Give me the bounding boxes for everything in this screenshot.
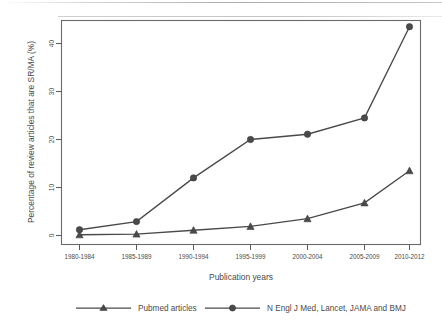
y-tick-label-30: 30 bbox=[48, 88, 55, 96]
x-tick-label-2000-2004: 2000-2004 bbox=[292, 253, 323, 260]
x-tick-label-1985-1989: 1985-1989 bbox=[121, 253, 152, 260]
data-series-layer bbox=[76, 24, 413, 238]
series-line-journals bbox=[80, 27, 410, 230]
legend-label-pubmed: Pubmed articles bbox=[138, 304, 197, 313]
y-tick-label-20: 20 bbox=[48, 136, 55, 144]
data-point-journals-1980-1984 bbox=[76, 227, 82, 233]
data-point-journals-2005-2009 bbox=[361, 115, 367, 121]
chart-legend: Pubmed articles N Engl J Med, Lancet, JA… bbox=[76, 304, 406, 313]
x-tick-label-1990-1994: 1990-1994 bbox=[178, 253, 209, 260]
data-point-journals-1995-1999 bbox=[247, 136, 253, 142]
data-point-journals-2000-2004 bbox=[304, 131, 310, 137]
line-chart-svg: 0 10 20 30 40 Percentage of review artic… bbox=[0, 0, 442, 327]
data-point-pubmed-2010-2012 bbox=[406, 167, 413, 174]
series-line-pubmed bbox=[80, 171, 410, 235]
data-point-journals-1985-1989 bbox=[133, 218, 139, 224]
y-axis-title: Percentage of review articles that are S… bbox=[26, 41, 36, 223]
legend-label-journals: N Engl J Med, Lancet, JAMA and BMJ bbox=[267, 304, 406, 313]
x-tick-labels: 1980-1984 1985-1989 1990-1994 1995-1999 … bbox=[64, 253, 425, 260]
y-tick-label-0: 0 bbox=[48, 233, 55, 237]
x-tick-label-2010-2012: 2010-2012 bbox=[394, 253, 425, 260]
x-tick-label-2005-2009: 2005-2009 bbox=[349, 253, 380, 260]
x-axis-title: Publication years bbox=[209, 272, 273, 282]
x-tick-label-1980-1984: 1980-1984 bbox=[64, 253, 95, 260]
y-tick-label-40: 40 bbox=[48, 40, 55, 48]
y-axis-ticks bbox=[56, 44, 62, 236]
y-tick-label-10: 10 bbox=[48, 184, 55, 192]
y-tick-labels: 0 10 20 30 40 bbox=[48, 40, 55, 238]
circle-marker bbox=[229, 305, 235, 311]
x-tick-label-1995-1999: 1995-1999 bbox=[235, 253, 266, 260]
data-point-journals-2010-2012 bbox=[406, 24, 412, 30]
plot-frame bbox=[62, 21, 421, 245]
x-axis-ticks bbox=[80, 245, 410, 251]
data-point-journals-1990-1994 bbox=[190, 175, 196, 181]
chart-figure: 0 10 20 30 40 Percentage of review artic… bbox=[0, 0, 442, 327]
